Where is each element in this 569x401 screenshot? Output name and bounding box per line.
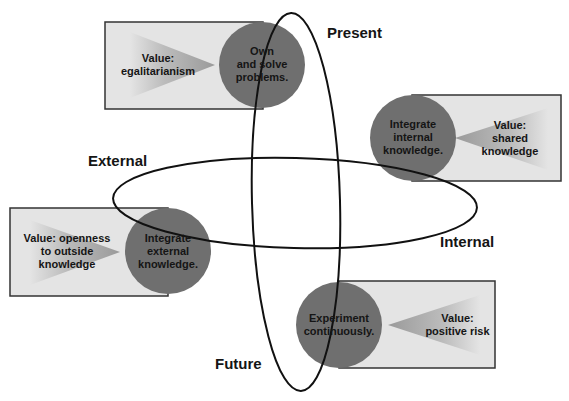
action-label-own-solve: Own and solve problems. — [222, 45, 302, 84]
value-label-own-solve: Value: egalitarianism — [108, 52, 208, 78]
value-label-integrate-external: Value: openness to outside knowledge — [12, 232, 122, 271]
values-actions-diagram: Present Future External Internal Value: … — [0, 0, 569, 401]
value-label-integrate-internal: Value: shared knowledge — [460, 119, 560, 158]
axis-label-external: External — [88, 152, 147, 169]
axis-label-internal: Internal — [440, 233, 494, 250]
axis-label-future: Future — [215, 355, 262, 372]
value-label-experiment: Value: positive risk — [410, 312, 505, 338]
axis-label-present: Present — [327, 24, 382, 41]
action-label-experiment: Experiment continuously. — [296, 312, 382, 338]
action-label-integrate-external: Integrate external knowledge. — [128, 232, 208, 271]
action-label-integrate-internal: Integrate internal knowledge. — [373, 118, 453, 157]
